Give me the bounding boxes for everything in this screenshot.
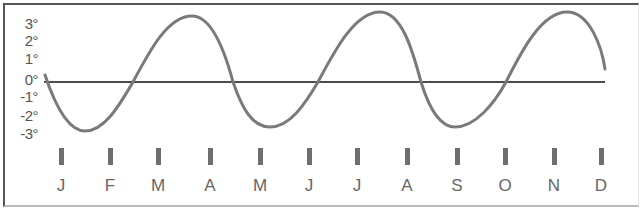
- x-label-sep: S: [447, 177, 467, 195]
- tick-mark: [307, 148, 312, 165]
- x-label-jul: J: [347, 177, 367, 195]
- x-label-may: M: [250, 177, 270, 195]
- tick-mark: [258, 148, 263, 165]
- x-label-dec: D: [591, 177, 611, 195]
- x-label-nov: N: [544, 177, 564, 195]
- x-label-apr: A: [200, 177, 220, 195]
- x-label-mar: M: [148, 177, 168, 195]
- tick-mark: [156, 148, 161, 165]
- x-label-oct: O: [495, 177, 515, 195]
- tick-mark: [208, 148, 213, 165]
- x-label-feb: F: [100, 177, 120, 195]
- tick-mark: [503, 148, 508, 165]
- tick-mark: [108, 148, 113, 165]
- x-label-aug: A: [397, 177, 417, 195]
- x-label-jan: J: [51, 177, 71, 195]
- tick-mark: [59, 148, 64, 165]
- tick-mark: [552, 148, 557, 165]
- tick-mark: [455, 148, 460, 165]
- tick-mark: [599, 148, 604, 165]
- data-curve: [45, 12, 605, 131]
- tick-mark: [405, 148, 410, 165]
- x-label-jun: J: [299, 177, 319, 195]
- tick-mark: [355, 148, 360, 165]
